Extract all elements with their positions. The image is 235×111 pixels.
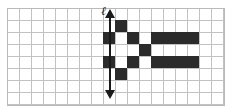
shaded-cell [115, 20, 127, 32]
shaded-cell [187, 32, 199, 44]
shaded-cell [163, 32, 175, 44]
shaded-cell [151, 56, 163, 68]
shaded-cell [139, 44, 151, 56]
arrow-down-icon [105, 90, 115, 99]
shaded-cell [175, 32, 187, 44]
shaded-cell [175, 56, 187, 68]
shaded-cell [127, 56, 139, 68]
shaded-cell [127, 32, 139, 44]
arrow-up-icon [105, 9, 115, 18]
shaded-cell [115, 68, 127, 80]
shaded-cell [151, 32, 163, 44]
symmetry-grid-figure: ℓ [0, 0, 235, 111]
shaded-cell [163, 56, 175, 68]
shaded-cell [187, 56, 199, 68]
symmetry-axis-line [109, 15, 111, 93]
symmetry-axis-label: ℓ [101, 5, 106, 17]
